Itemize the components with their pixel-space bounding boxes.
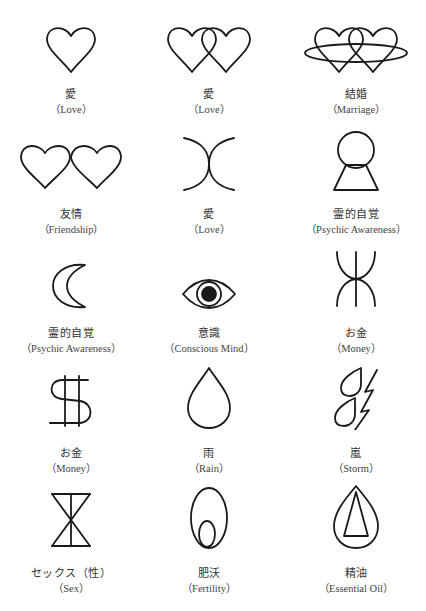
symbol-label-jp: 精油 [285, 564, 426, 580]
symbol-label-jp: 霊的自覚 [285, 205, 426, 221]
symbol-label-jp: 意識 [138, 324, 280, 340]
double-heart-icon [166, 24, 252, 74]
symbol-money-arcs: お金 （Money） [285, 240, 426, 360]
symbol-label-jp: お金 [0, 444, 142, 460]
symbol-label-jp: 嵐 [285, 444, 426, 460]
symbol-psychic-crystal-ball: 霊的自覚 （Psychic Awareness） [285, 120, 426, 240]
symbol-friendship: 友情 （Friendship） [0, 120, 142, 240]
symbol-label-jp: 愛 [0, 85, 142, 101]
symbol-label-en: （Essential Oil） [275, 580, 426, 595]
symbol-label-jp: 肥沃 [138, 564, 280, 580]
symbol-label-jp: 雨 [138, 444, 280, 460]
symbol-conscious-mind: 意識 （Conscious Mind） [138, 240, 280, 360]
symbol-rain: 雨 （Rain） [138, 360, 280, 480]
touching-arcs-icon [182, 136, 236, 192]
symbol-essential-oil: 精油 （Essential Oil） [285, 480, 426, 611]
symbol-label-en: （Rain） [128, 460, 290, 475]
symbol-label-en: （Storm） [275, 460, 426, 475]
drop-triangle-icon [331, 484, 381, 550]
symbol-label-jp: 霊的自覚 [0, 324, 142, 340]
symbol-label-en: （Fertility） [128, 580, 290, 595]
symbol-love-heart: 愛 （Love） [0, 0, 142, 120]
dollar-sign-icon [46, 374, 96, 428]
symbol-label-jp: セックス（性） [0, 564, 142, 580]
symbol-sex: セックス（性） （Sex） [0, 480, 142, 611]
symbol-label-en: （Conscious Mind） [128, 340, 290, 355]
symbol-label-jp: 愛 [138, 85, 280, 101]
symbol-psychic-moon: 霊的自覚 （Psychic Awareness） [0, 240, 142, 360]
symbol-label-en: （Marriage） [275, 101, 426, 116]
symbol-marriage: 結婚 （Marriage） [285, 0, 426, 120]
eye-icon [181, 278, 237, 310]
symbol-storm: 嵐 （Storm） [285, 360, 426, 480]
symbol-label-jp: 結婚 [285, 85, 426, 101]
hourglass-icon [50, 492, 92, 548]
symbol-label-en: （Money） [275, 340, 426, 355]
symbol-label-en: （Love） [128, 221, 290, 236]
heart-icon [44, 24, 98, 74]
symbol-label-en: （Love） [128, 101, 290, 116]
symbol-fertility: 肥沃 （Fertility） [138, 480, 280, 611]
symbol-label-jp: 愛 [138, 205, 280, 221]
raindrop-icon [186, 366, 232, 430]
money-arcs-icon [334, 250, 378, 308]
storm-drops-lightning-icon [333, 366, 379, 430]
ringed-hearts-icon [302, 24, 410, 74]
crescent-moon-icon [51, 262, 91, 310]
egg-icon [188, 486, 230, 550]
symbol-label-jp: お金 [285, 324, 426, 340]
symbol-money-dollar: お金 （Money） [0, 360, 142, 480]
symbol-label-jp: 友情 [0, 205, 142, 221]
joined-hearts-icon [19, 142, 123, 190]
symbol-love-arcs: 愛 （Love） [138, 120, 280, 240]
symbol-label-en: （Psychic Awareness） [275, 221, 426, 236]
crystal-ball-icon [330, 130, 382, 192]
symbol-love-double-heart: 愛 （Love） [138, 0, 280, 120]
